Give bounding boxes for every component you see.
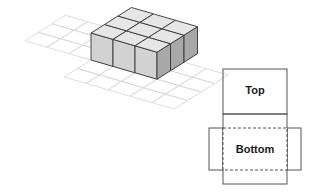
floor-cell bbox=[108, 81, 144, 96]
floor-cell bbox=[39, 24, 75, 39]
floor-cell bbox=[52, 15, 88, 30]
top-label: Top bbox=[245, 84, 265, 96]
net-right-flap bbox=[287, 128, 301, 170]
floor-cell bbox=[179, 77, 215, 92]
floor-cell bbox=[64, 69, 100, 84]
floor-cell bbox=[166, 86, 202, 101]
figure-canvas: Top Bottom bbox=[0, 0, 319, 196]
bottom-label: Bottom bbox=[236, 143, 275, 155]
floor-cell bbox=[144, 79, 180, 94]
net-left-flap bbox=[209, 128, 223, 170]
floor-cell bbox=[47, 39, 83, 54]
floor-cell bbox=[25, 32, 61, 47]
floor-cell bbox=[152, 94, 188, 109]
floor-cell bbox=[130, 88, 166, 103]
cube-block bbox=[91, 8, 198, 80]
floor-cell bbox=[86, 75, 122, 90]
